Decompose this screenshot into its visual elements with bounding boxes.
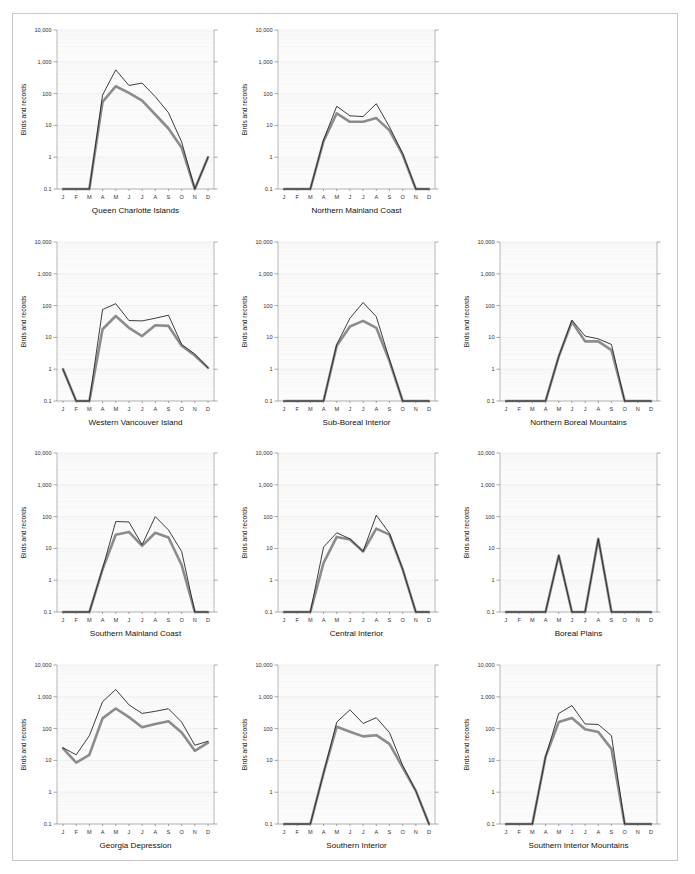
x-axis-ticks: JFMAMJJASOND [62, 401, 210, 412]
y-tick-label: 100 [485, 725, 494, 731]
x-tick-label-4: M [113, 194, 118, 200]
x-tick-label-1: F [296, 617, 300, 623]
y-axis-title: Birds and records [241, 506, 248, 558]
plot-background [57, 242, 214, 401]
x-tick-label-3: A [101, 828, 105, 834]
y-axis-title: Birds and records [20, 718, 27, 770]
x-tick-label-4: M [113, 617, 118, 623]
panel-title: Southern Interior Mountains [528, 841, 628, 850]
y-tick-label: 1 [270, 366, 273, 372]
x-tick-label-4: M [335, 194, 340, 200]
y-axis-title: Birds and records [241, 294, 248, 346]
y-tick-label: 10,000 [477, 239, 494, 245]
x-tick-label-5: J [128, 828, 131, 834]
plot-background [57, 453, 214, 612]
x-tick-label-2: M [530, 828, 535, 834]
chart-panel-central-interior: 10,0001,0001001010.1JFMAMJJASONDBirds an… [234, 437, 455, 649]
x-tick-label-2: M [530, 405, 535, 411]
x-tick-label-6: J [362, 194, 365, 200]
x-tick-label-11: D [427, 194, 431, 200]
x-tick-label-5: J [128, 194, 131, 200]
y-tick-label: 1 [491, 577, 494, 583]
x-tick-label-3: A [101, 405, 105, 411]
small-multiples-grid: 10,0001,0001001010.1JFMAMJJASONDBirds an… [13, 14, 677, 860]
x-tick-label-6: J [141, 617, 144, 623]
y-axis-title: Birds and records [20, 294, 27, 346]
y-tick-label: 1,000 [259, 693, 273, 699]
y-tick-label: 1,000 [38, 693, 52, 699]
x-tick-label-9: O [179, 617, 184, 623]
y-tick-label: 0.1 [44, 398, 52, 404]
x-tick-label-10: N [193, 405, 197, 411]
x-tick-label-2: M [87, 194, 92, 200]
y-tick-label: 1 [491, 366, 494, 372]
x-tick-label-10: N [635, 828, 639, 834]
y-tick-label: 10 [45, 757, 51, 763]
x-tick-label-4: M [335, 617, 340, 623]
x-tick-label-11: D [649, 828, 653, 834]
x-axis-ticks: JFMAMJJASOND [62, 824, 210, 835]
x-tick-label-9: O [179, 405, 184, 411]
y-tick-label: 1 [48, 577, 51, 583]
x-tick-label-6: J [362, 405, 365, 411]
chart-panel-northern-boreal-mountains: 10,0001,0001001010.1JFMAMJJASONDBirds an… [456, 226, 677, 438]
x-tick-label-7: A [375, 194, 379, 200]
x-tick-label-0: J [283, 405, 286, 411]
y-axis-title: Birds and records [241, 718, 248, 770]
x-tick-label-10: N [635, 617, 639, 623]
x-tick-label-10: N [414, 194, 418, 200]
plot-background [57, 30, 214, 189]
x-tick-label-4: M [113, 828, 118, 834]
x-tick-label-5: J [128, 617, 131, 623]
y-tick-label: 10 [267, 122, 273, 128]
y-tick-label: 100 [485, 302, 494, 308]
plot-background [500, 453, 657, 612]
x-tick-label-11: D [206, 617, 210, 623]
y-tick-label: 0.1 [44, 609, 52, 615]
x-axis-ticks: JFMAMJJASOND [504, 401, 652, 412]
x-tick-label-8: S [167, 828, 171, 834]
panel-title: Southern Interior [327, 841, 388, 850]
plot-background [278, 453, 435, 612]
y-tick-label: 10 [45, 545, 51, 551]
y-tick-label: 10,000 [34, 239, 51, 245]
y-tick-label: 10 [45, 122, 51, 128]
x-tick-label-6: J [362, 828, 365, 834]
x-tick-label-10: N [193, 617, 197, 623]
x-axis-ticks: JFMAMJJASOND [283, 189, 431, 200]
y-tick-label: 0.1 [486, 821, 494, 827]
x-tick-label-2: M [308, 194, 313, 200]
x-tick-label-9: O [401, 405, 406, 411]
x-tick-label-0: J [504, 617, 507, 623]
x-tick-label-9: O [622, 405, 627, 411]
x-tick-label-8: S [167, 617, 171, 623]
x-tick-label-7: A [153, 828, 157, 834]
x-tick-label-1: F [74, 617, 78, 623]
x-tick-label-8: S [388, 194, 392, 200]
y-tick-label: 1 [270, 789, 273, 795]
plot-background [278, 30, 435, 189]
x-tick-label-9: O [179, 828, 184, 834]
y-tick-label: 10 [488, 334, 494, 340]
y-tick-label: 10 [488, 757, 494, 763]
x-tick-label-10: N [635, 405, 639, 411]
y-tick-label: 1,000 [38, 59, 52, 65]
x-tick-label-7: A [596, 617, 600, 623]
y-tick-label: 0.1 [44, 821, 52, 827]
y-axis-title: Birds and records [463, 718, 470, 770]
y-tick-label: 10,000 [256, 450, 273, 456]
panel-title: Northern Mainland Coast [312, 206, 403, 215]
y-tick-label: 100 [485, 514, 494, 520]
x-axis-ticks: JFMAMJJASOND [283, 824, 431, 835]
panel-title: Sub-Boreal Interior [323, 418, 391, 427]
y-tick-label: 10,000 [477, 662, 494, 668]
y-tick-label: 0.1 [265, 821, 273, 827]
y-tick-label: 100 [42, 302, 51, 308]
x-tick-label-8: S [167, 194, 171, 200]
y-tick-label: 0.1 [265, 398, 273, 404]
y-tick-label: 1,000 [259, 270, 273, 276]
x-tick-label-2: M [530, 617, 535, 623]
x-tick-label-1: F [296, 194, 300, 200]
x-tick-label-0: J [62, 405, 65, 411]
x-tick-label-0: J [283, 194, 286, 200]
